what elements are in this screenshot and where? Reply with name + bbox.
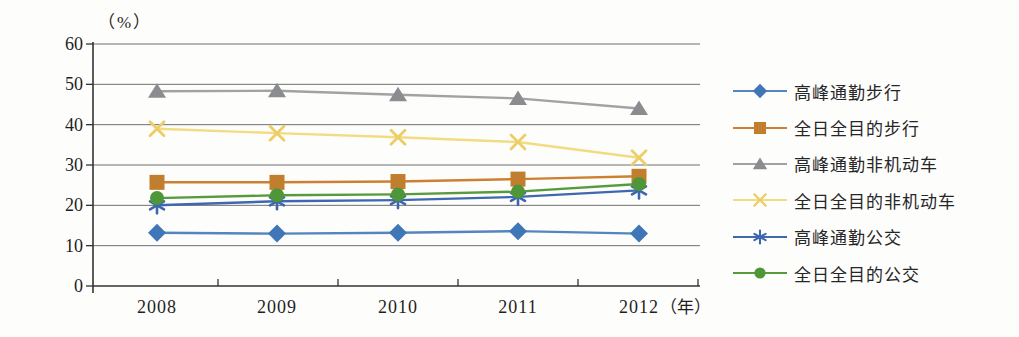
data-point-marker — [270, 188, 284, 202]
scanned-chart-page: 0102030405060（%）20082009201020112012（年） … — [0, 0, 1019, 337]
x-axis-tick-label: 2008 — [137, 297, 177, 317]
y-axis-tick-label: 50 — [65, 74, 83, 94]
legend-marker-sample — [733, 263, 787, 283]
data-point-marker — [148, 224, 166, 242]
x-axis-tick-label: 2011 — [498, 297, 537, 317]
y-axis-tick-label: 60 — [65, 34, 83, 54]
data-point-marker — [150, 191, 164, 205]
data-point-marker — [391, 174, 406, 189]
legend-marker — [754, 268, 765, 279]
y-axis-tick-label: 20 — [65, 195, 83, 215]
y-axis-tick-label: 40 — [65, 115, 83, 135]
legend-item: 高峰通勤非机动车 — [733, 146, 956, 182]
legend-item: 全日全目的非机动车 — [733, 182, 956, 218]
line-chart: 0102030405060（%）20082009201020112012（年） … — [0, 0, 1019, 337]
y-axis-tick-label: 0 — [74, 276, 83, 296]
legend-marker-sample — [733, 154, 787, 174]
series-line-3 — [157, 129, 639, 158]
legend-item-label: 高峰通勤非机动车 — [794, 151, 938, 176]
x-axis-tick-label: 2010 — [378, 297, 418, 317]
y-axis-tick-label: 30 — [65, 155, 83, 175]
data-point-marker — [509, 222, 527, 240]
legend-item-label: 高峰通勤公交 — [794, 224, 902, 249]
data-point-marker — [268, 225, 286, 243]
chart-legend: 高峰通勤步行全日全目的步行高峰通勤非机动车全日全目的非机动车高峰通勤公交全日全目… — [733, 73, 956, 291]
data-point-marker — [511, 185, 525, 199]
data-point-marker — [389, 224, 407, 242]
x-axis-tick-label: 2012 — [619, 297, 659, 317]
legend-item: 全日全目的公交 — [733, 255, 956, 291]
data-point-marker — [511, 172, 526, 187]
x-axis-unit-label: （年） — [660, 298, 711, 317]
data-point-marker — [270, 175, 285, 190]
legend-marker-sample — [733, 190, 787, 210]
data-point-marker — [632, 177, 646, 191]
legend-marker-sample — [733, 118, 787, 138]
x-axis-tick-label: 2009 — [257, 297, 297, 317]
legend-marker-sample — [733, 81, 787, 101]
legend-marker — [754, 122, 766, 134]
y-axis-unit-label: （%） — [98, 13, 152, 32]
legend-marker-sample — [733, 227, 787, 247]
legend-item: 高峰通勤公交 — [733, 219, 956, 255]
legend-item: 全日全目的步行 — [733, 109, 956, 145]
data-point-marker — [391, 187, 405, 201]
legend-item-label: 全日全目的公交 — [794, 261, 920, 286]
legend-item-label: 全日全目的步行 — [794, 115, 920, 140]
legend-item-label: 全日全目的非机动车 — [794, 188, 956, 213]
y-axis-tick-label: 10 — [65, 236, 83, 256]
legend-item: 高峰通勤步行 — [733, 73, 956, 109]
legend-item-label: 高峰通勤步行 — [794, 79, 902, 104]
data-point-marker — [630, 225, 648, 243]
data-point-marker — [150, 175, 165, 190]
legend-marker — [753, 84, 767, 98]
